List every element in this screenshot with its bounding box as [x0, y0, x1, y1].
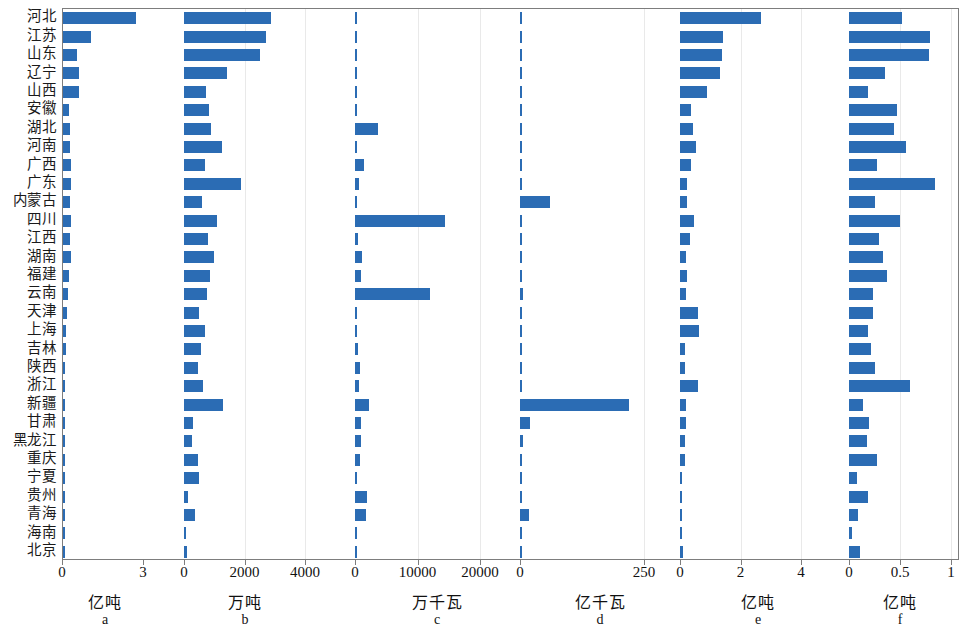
bar: [849, 509, 858, 521]
bar: [849, 527, 852, 539]
bar: [63, 215, 71, 227]
category-label: 四川: [27, 210, 56, 230]
axis-tick-label: 0.5: [891, 564, 910, 581]
bar: [63, 288, 68, 300]
bar: [184, 399, 223, 411]
bar: [520, 270, 522, 282]
bar: [849, 380, 910, 392]
bar: [184, 509, 195, 521]
bar: [184, 141, 222, 153]
category-label: 浙江: [27, 375, 56, 395]
bar: [849, 417, 869, 429]
category-label: 海南: [27, 523, 56, 543]
bar-series-d: [516, 9, 677, 559]
bar: [680, 31, 723, 43]
bar: [184, 270, 210, 282]
bar: [849, 233, 879, 245]
bar: [849, 215, 900, 227]
category-label: 新疆: [27, 394, 56, 414]
panel-f: [845, 8, 959, 560]
bar: [184, 454, 198, 466]
bar: [355, 325, 357, 337]
bar: [355, 123, 378, 135]
bar: [520, 325, 522, 337]
bar: [520, 307, 522, 319]
bar: [355, 141, 357, 153]
bar: [849, 123, 894, 135]
bar: [63, 196, 70, 208]
bar: [355, 546, 357, 558]
bar: [63, 31, 91, 43]
bar: [520, 509, 529, 521]
axis-tick-label: 2: [737, 564, 745, 581]
bar: [63, 362, 65, 374]
panel-key-e: e: [755, 612, 761, 628]
axis-tick-label: 10000: [399, 564, 437, 581]
bar: [184, 196, 202, 208]
bar: [355, 67, 357, 79]
bar: [355, 343, 358, 355]
category-label: 山东: [27, 44, 56, 64]
bar: [355, 509, 366, 521]
bar: [520, 31, 522, 43]
plot-area-a: [62, 8, 182, 560]
bar: [849, 435, 867, 447]
bar: [355, 288, 430, 300]
category-label: 河南: [27, 136, 56, 156]
bar: [520, 233, 522, 245]
bar: [849, 159, 877, 171]
bar: [520, 251, 522, 263]
bar: [520, 86, 522, 98]
bar: [184, 380, 203, 392]
bar: [184, 325, 205, 337]
bar: [184, 435, 192, 447]
bar: [184, 362, 198, 374]
panel-e: [677, 8, 845, 560]
bar: [680, 233, 690, 245]
bar: [355, 307, 357, 319]
bar: [184, 288, 207, 300]
category-label: 湖南: [27, 247, 56, 267]
bar: [184, 527, 186, 539]
bar: [680, 417, 686, 429]
bar: [680, 67, 720, 79]
bar: [520, 159, 522, 171]
panel-key-c: c: [434, 612, 440, 628]
bar: [63, 178, 71, 190]
bar: [680, 325, 699, 337]
bar: [63, 472, 65, 484]
axis-tick-label: 0: [516, 564, 524, 581]
bar: [184, 49, 260, 61]
axis-unit-label-e: 亿吨: [741, 589, 775, 613]
axis-tick-label: 0: [180, 564, 188, 581]
plot-area-d: [516, 8, 677, 560]
bar: [680, 472, 682, 484]
bar: [680, 159, 691, 171]
bar: [849, 546, 860, 558]
category-label: 河北: [27, 7, 56, 27]
bar: [355, 104, 357, 116]
bar: [520, 380, 522, 392]
bar: [680, 435, 685, 447]
bar: [63, 509, 65, 521]
category-label: 江西: [27, 228, 56, 248]
bar-series-c: [353, 9, 516, 559]
bar: [355, 527, 357, 539]
category-label: 吉林: [27, 339, 56, 359]
bar: [184, 343, 201, 355]
bar: [355, 362, 360, 374]
bar: [355, 472, 357, 484]
bar: [520, 123, 522, 135]
bar: [63, 527, 65, 539]
bar: [520, 104, 522, 116]
bar: [520, 435, 523, 447]
category-label: 上海: [27, 320, 56, 340]
bar: [849, 270, 887, 282]
bar-series-a: [63, 9, 182, 559]
bar: [355, 251, 362, 263]
bar: [184, 472, 199, 484]
bar: [184, 31, 266, 43]
bar: [680, 270, 687, 282]
axis-tick-label: 0: [58, 564, 66, 581]
bar: [184, 215, 217, 227]
